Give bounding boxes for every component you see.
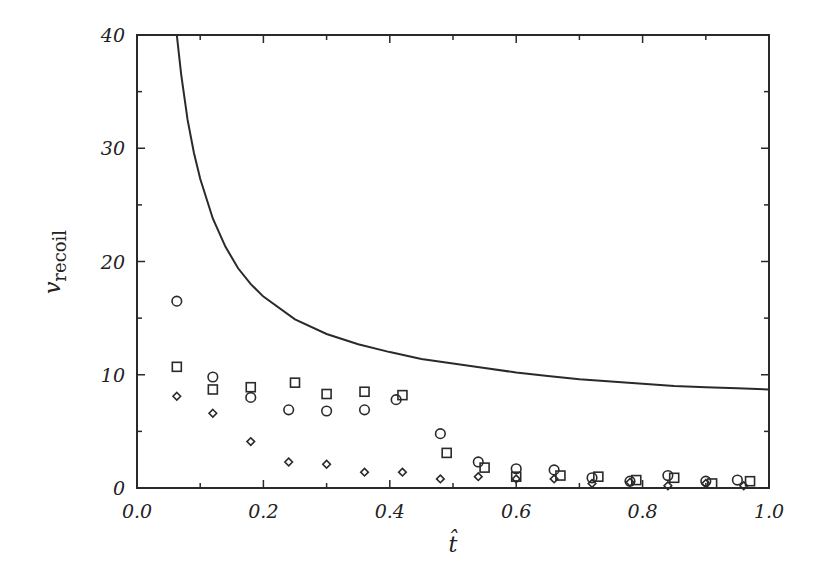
circle-marker — [208, 372, 218, 382]
circle-marker — [284, 405, 294, 415]
y-tick-label: 30 — [101, 137, 125, 159]
x-tick-label: 0.2 — [248, 500, 278, 522]
circle-marker — [663, 471, 673, 481]
square-marker — [360, 387, 369, 396]
x-tick-label: 0.0 — [122, 500, 152, 522]
y-axis-label: vrecoil — [40, 230, 70, 294]
series-squares — [172, 362, 754, 488]
diamond-marker — [323, 460, 331, 468]
series-circles — [172, 296, 742, 486]
data-series — [172, 35, 769, 490]
diamond-marker — [173, 392, 181, 400]
x-tick-label: 0.8 — [627, 500, 657, 522]
diamond-marker — [474, 473, 482, 481]
x-tick-label: 0.4 — [375, 500, 405, 522]
x-tick-label: 0.6 — [501, 500, 531, 522]
circle-marker — [733, 475, 743, 485]
chart: 0.00.20.40.60.81.0 010203040 t̂ vrecoil — [0, 0, 825, 574]
y-tick-label: 20 — [100, 251, 125, 273]
square-marker — [172, 362, 181, 371]
x-axis-label: t̂ — [449, 529, 459, 557]
circle-marker — [473, 457, 483, 467]
square-marker — [246, 383, 255, 392]
x-tick-label: 1.0 — [754, 500, 784, 522]
square-marker — [291, 378, 300, 387]
square-marker — [208, 385, 217, 394]
diamond-marker — [550, 475, 558, 483]
y-tick-label: 40 — [100, 24, 125, 46]
diamond-marker — [399, 468, 407, 476]
y-axis-label-sub: recoil — [49, 230, 70, 282]
y-tick-labels: 010203040 — [100, 24, 125, 499]
plot-frame — [137, 35, 769, 488]
square-marker — [670, 473, 679, 482]
x-tick-labels: 0.00.20.40.60.81.0 — [122, 500, 784, 522]
diamond-marker — [247, 438, 255, 446]
diamond-marker — [361, 468, 369, 476]
y-tick-label: 0 — [113, 477, 125, 499]
diamond-marker — [285, 458, 293, 466]
axis-ticks — [137, 35, 769, 488]
circle-marker — [172, 296, 182, 306]
square-marker — [442, 448, 451, 457]
circle-marker — [246, 393, 256, 403]
square-marker — [322, 390, 331, 399]
circle-marker — [436, 429, 446, 439]
circle-marker — [322, 406, 332, 416]
y-tick-label: 10 — [101, 364, 125, 386]
circle-marker — [549, 465, 559, 475]
diamond-marker — [209, 409, 217, 417]
diamond-marker — [437, 475, 445, 483]
series-curve — [177, 35, 769, 390]
series-diamonds — [173, 392, 748, 489]
svg-text:vrecoil: vrecoil — [40, 230, 70, 294]
y-axis-label-main: v — [40, 281, 65, 294]
curve-line — [177, 35, 769, 390]
circle-marker — [360, 405, 370, 415]
plot-border — [137, 35, 769, 488]
